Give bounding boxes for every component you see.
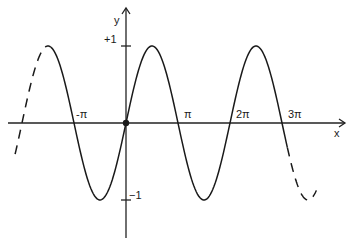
x-tick-label: π [184,108,192,120]
sine-curve-dashed-left [15,46,51,154]
labels: xy-ππ2π3π+1−1 [76,14,340,201]
x-tick-label: -π [76,108,88,120]
sine-curve-dashed-right [287,148,316,200]
axes [8,8,345,238]
y-tick-label: +1 [104,33,117,45]
x-tick-label: 3π [288,108,302,120]
y-axis-label: y [114,14,120,26]
x-axis-label: x [334,127,340,139]
origin-dot [123,120,129,126]
x-tick-label: 2π [236,108,250,120]
y-tick-label: −1 [129,189,142,201]
sine-chart: xy-ππ2π3π+1−1 [0,0,357,245]
